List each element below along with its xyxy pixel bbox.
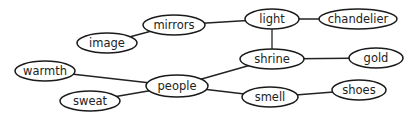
- node-label: shoes: [342, 83, 375, 97]
- node-label: sweat: [73, 94, 108, 108]
- node-label: people: [158, 79, 197, 93]
- node-image: image: [77, 33, 137, 53]
- node-mirrors: mirrors: [143, 15, 205, 35]
- node-shoes: shoes: [332, 80, 386, 100]
- nodes-layer: mirrorslightchandelierimageshrinegoldwar…: [15, 9, 403, 111]
- concept-map: mirrorslightchandelierimageshrinegoldwar…: [0, 0, 419, 119]
- node-shrine: shrine: [240, 49, 304, 69]
- node-label: light: [259, 12, 285, 26]
- node-label: image: [89, 36, 125, 50]
- edges-layer: [45, 19, 376, 101]
- node-gold: gold: [349, 48, 403, 68]
- node-label: gold: [364, 51, 389, 65]
- node-smell: smell: [242, 87, 298, 107]
- node-warmth: warmth: [15, 61, 75, 81]
- node-chandelier: chandelier: [319, 9, 397, 29]
- node-light: light: [245, 9, 299, 29]
- node-label: mirrors: [153, 18, 194, 32]
- node-label: chandelier: [328, 12, 389, 26]
- node-sweat: sweat: [60, 91, 120, 111]
- node-label: smell: [255, 90, 286, 104]
- node-people: people: [146, 75, 208, 97]
- node-label: warmth: [23, 64, 67, 78]
- node-label: shrine: [254, 52, 290, 66]
